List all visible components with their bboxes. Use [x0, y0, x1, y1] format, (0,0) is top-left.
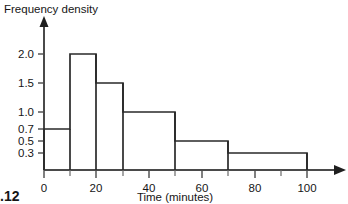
- histogram-figure: 2.0 1.5 1.0 0.7 0.5 0.3 0 20: [0, 0, 348, 204]
- y-tick-label-0-3: 0.3: [18, 147, 34, 159]
- y-tick-label-2-0: 2.0: [18, 48, 34, 60]
- histogram-chart: 2.0 1.5 1.0 0.7 0.5 0.3 0 20: [0, 0, 348, 204]
- x-axis-arrow-icon: [334, 165, 346, 175]
- x-axis-title: Time (minutes): [137, 191, 213, 203]
- y-axis-tick-labels: 2.0 1.5 1.0 0.7 0.5 0.3: [18, 48, 34, 159]
- x-tick-label-100: 100: [297, 182, 316, 194]
- y-tick-label-0-5: 0.5: [18, 135, 34, 147]
- y-axis-title: Frequency density: [4, 3, 98, 15]
- figure-number: .12: [0, 188, 20, 204]
- x-tick-label-80: 80: [249, 182, 262, 194]
- y-tick-label-0-7: 0.7: [18, 123, 34, 135]
- y-tick-label-1-0: 1.0: [18, 106, 34, 118]
- y-axis-arrow-icon: [40, 16, 49, 27]
- x-tick-label-0: 0: [41, 182, 47, 194]
- x-tick-label-20: 20: [90, 182, 103, 194]
- y-tick-label-1-5: 1.5: [18, 77, 34, 89]
